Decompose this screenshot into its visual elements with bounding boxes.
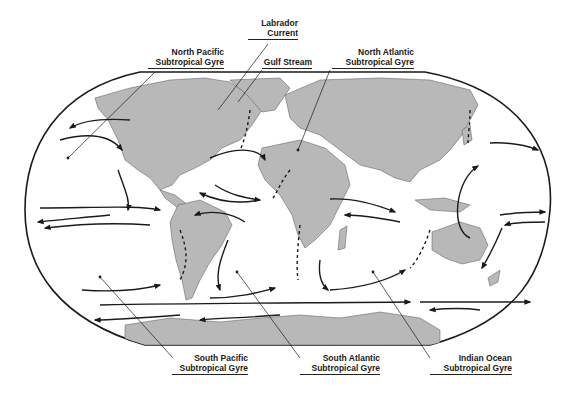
label-line: North Pacific [148, 47, 224, 57]
label-line: Labrador [248, 18, 298, 28]
label-gulf-stream: Gulf Stream [262, 57, 312, 69]
label-south-atlantic-gyre: South Atlantic Subtropical Gyre [300, 353, 380, 375]
label-line: Current [248, 28, 298, 38]
label-line: Subtropical Gyre [148, 57, 224, 67]
label-line: South Atlantic [300, 353, 380, 363]
label-north-atlantic-gyre: North Atlantic Subtropical Gyre [332, 47, 414, 69]
label-indian-ocean-gyre: Indian Ocean Subtropical Gyre [430, 353, 512, 375]
label-line: Subtropical Gyre [172, 363, 248, 373]
label-line: Subtropical Gyre [300, 363, 380, 373]
label-line: North Atlantic [332, 47, 414, 57]
label-south-pacific-gyre: South Pacific Subtropical Gyre [172, 353, 248, 375]
label-north-pacific-gyre: North Pacific Subtropical Gyre [148, 47, 224, 69]
label-line: Subtropical Gyre [430, 363, 512, 373]
label-line: Gulf Stream [262, 57, 312, 67]
label-line: Indian Ocean [430, 353, 512, 363]
label-line: South Pacific [172, 353, 248, 363]
label-line: Subtropical Gyre [332, 57, 414, 67]
label-labrador-current: Labrador Current [248, 18, 298, 40]
